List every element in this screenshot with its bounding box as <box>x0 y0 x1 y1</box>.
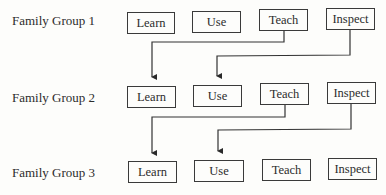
connector-lines <box>0 0 386 195</box>
arrow-g1-teach-to-g2-learn <box>152 31 284 77</box>
